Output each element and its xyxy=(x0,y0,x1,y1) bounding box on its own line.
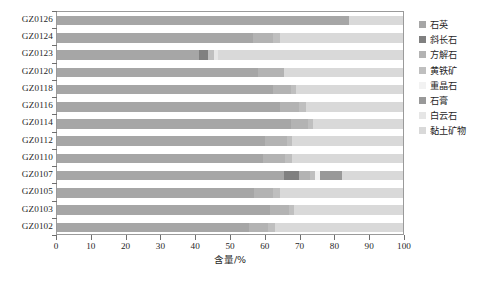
x-tick xyxy=(126,235,127,240)
bar-segment xyxy=(57,171,284,181)
bar-segment xyxy=(284,68,403,78)
bar-segment xyxy=(280,33,403,43)
y-tick-label: GZ0116 xyxy=(22,101,53,110)
legend-item[interactable]: 白云石 xyxy=(419,108,489,123)
bar-segment xyxy=(306,102,403,112)
bar-segment xyxy=(349,16,403,26)
legend-swatch-icon xyxy=(419,36,426,43)
x-tick-label: 20 xyxy=(111,241,141,251)
y-tick xyxy=(52,149,57,150)
y-tick xyxy=(52,11,57,12)
legend-item[interactable]: 黏土矿物 xyxy=(419,123,489,138)
bar-rows xyxy=(57,12,403,234)
legend-item[interactable]: 方解石 xyxy=(419,47,489,62)
bar-segment xyxy=(292,136,403,146)
bar-segment xyxy=(292,154,403,164)
bar-segment xyxy=(57,85,273,95)
bar-segment xyxy=(273,188,280,198)
y-tick xyxy=(52,166,57,167)
bar-segment xyxy=(208,50,215,60)
bar-segment xyxy=(57,205,270,215)
bar-row xyxy=(57,33,403,43)
bar-segment xyxy=(268,223,275,233)
y-tick xyxy=(52,28,57,29)
x-tick xyxy=(91,235,92,240)
bar-row xyxy=(57,68,403,78)
y-tick xyxy=(52,218,57,219)
y-tick xyxy=(52,132,57,133)
y-tick xyxy=(52,183,57,184)
bar-segment xyxy=(57,154,263,164)
y-tick xyxy=(52,114,57,115)
legend-label: 重晶石 xyxy=(430,81,457,90)
y-tick-label: GZ0105 xyxy=(22,187,53,196)
legend-label: 石英 xyxy=(430,20,448,29)
x-tick-label: 40 xyxy=(180,241,210,251)
bar-row xyxy=(57,16,403,26)
stacked-bar-chart: GZ0126GZ0124GZ0123GZ0120GZ0118GZ0116GZ01… xyxy=(0,0,492,287)
bar-segment xyxy=(199,50,208,60)
y-tick xyxy=(52,63,57,64)
bar-segment xyxy=(284,171,300,181)
plot-area xyxy=(56,11,404,235)
bar-row xyxy=(57,154,403,164)
x-tick-label: 60 xyxy=(250,241,280,251)
y-tick-label: GZ0102 xyxy=(22,222,53,231)
y-tick-label: GZ0114 xyxy=(22,118,53,127)
x-tick-label: 80 xyxy=(319,241,349,251)
legend-item[interactable]: 黄铁矿 xyxy=(419,63,489,78)
bar-row xyxy=(57,85,403,95)
bar-segment xyxy=(275,223,403,233)
legend-label: 黄铁矿 xyxy=(430,66,457,75)
x-tick-label: 0 xyxy=(41,241,71,251)
legend-item[interactable]: 重晶石 xyxy=(419,78,489,93)
y-tick-label: GZ0126 xyxy=(22,15,53,24)
legend-item[interactable]: 斜长石 xyxy=(419,32,489,47)
bar-segment xyxy=(254,188,273,198)
bar-segment xyxy=(57,223,249,233)
bar-segment xyxy=(57,68,258,78)
legend-label: 石膏 xyxy=(430,96,448,105)
x-tick xyxy=(56,235,57,240)
x-axis-title: 含量/% xyxy=(0,252,460,266)
bar-row xyxy=(57,136,403,146)
legend-swatch-icon xyxy=(419,21,426,28)
y-tick-label: GZ0103 xyxy=(22,205,53,214)
bar-segment xyxy=(296,85,403,95)
bar-row xyxy=(57,188,403,198)
x-tick xyxy=(265,235,266,240)
y-tick-label: GZ0110 xyxy=(22,153,53,162)
y-tick-label: GZ0107 xyxy=(22,170,53,179)
bar-row xyxy=(57,102,403,112)
x-tick xyxy=(334,235,335,240)
bar-segment xyxy=(253,33,274,43)
y-tick-label: GZ0120 xyxy=(22,67,53,76)
bar-segment xyxy=(270,205,289,215)
y-tick-label: GZ0123 xyxy=(22,49,53,58)
legend-item[interactable]: 石英 xyxy=(419,17,489,32)
bar-segment xyxy=(313,119,403,129)
bar-segment xyxy=(285,154,292,164)
y-tick xyxy=(52,201,57,202)
x-tick-label: 100 xyxy=(389,241,419,251)
legend-swatch-icon xyxy=(419,51,426,58)
legend-item[interactable]: 石膏 xyxy=(419,93,489,108)
legend-label: 方解石 xyxy=(430,50,457,59)
bar-segment xyxy=(263,154,285,164)
bar-row xyxy=(57,223,403,233)
x-tick xyxy=(300,235,301,240)
bar-segment xyxy=(258,68,284,78)
bar-segment xyxy=(342,171,403,181)
y-tick-label: GZ0124 xyxy=(22,32,53,41)
x-tick-label: 70 xyxy=(285,241,315,251)
x-tick-label: 50 xyxy=(215,241,245,251)
bar-segment xyxy=(299,171,309,181)
bar-row xyxy=(57,171,403,181)
x-tick xyxy=(369,235,370,240)
y-tick xyxy=(52,45,57,46)
legend-swatch-icon xyxy=(419,97,426,104)
bar-segment xyxy=(280,188,403,198)
bar-segment xyxy=(280,102,299,112)
bar-segment xyxy=(57,16,349,26)
bar-segment xyxy=(265,136,287,146)
